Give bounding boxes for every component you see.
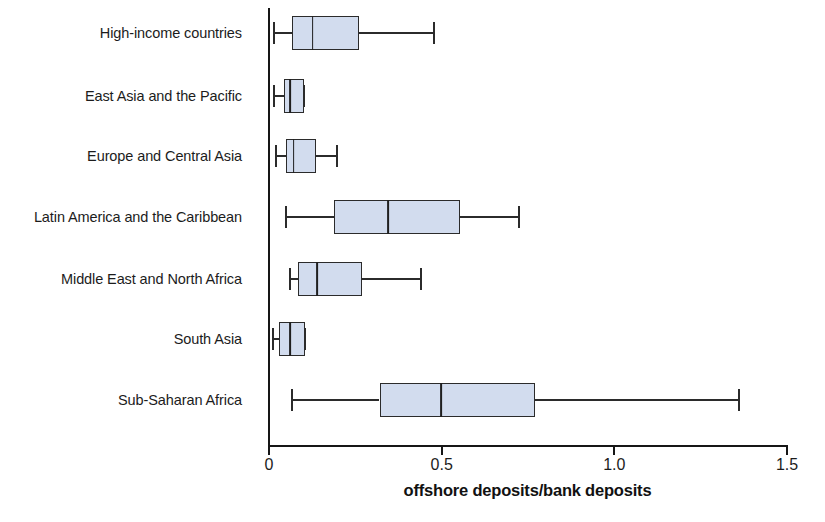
median-line — [387, 200, 389, 234]
median-line — [316, 262, 318, 296]
y-axis-line — [268, 8, 270, 446]
box-iqr — [284, 79, 304, 113]
x-tick-0 — [268, 447, 270, 455]
whisker-low-cap — [273, 85, 275, 107]
whisker-low-cap — [291, 389, 293, 411]
whisker-high-cap — [433, 22, 435, 44]
whisker-low-cap — [272, 328, 274, 350]
box-iqr — [279, 322, 305, 356]
x-tick-3 — [786, 447, 788, 455]
whisker-high-line — [316, 155, 337, 157]
category-label-east-asia-pacific: East Asia and the Pacific — [85, 88, 242, 104]
x-axis-title: offshore deposits/bank deposits — [268, 481, 787, 500]
category-label-latin-america-caribbean: Latin America and the Caribbean — [34, 209, 242, 225]
median-line — [293, 139, 295, 173]
whisker-low-line — [290, 278, 298, 280]
whisker-low-line — [276, 155, 286, 157]
whisker-high-line — [359, 32, 435, 34]
median-line — [312, 16, 314, 50]
x-tick-label-1: 0.5 — [431, 456, 453, 474]
median-line — [290, 79, 292, 113]
whisker-low-cap — [289, 268, 291, 290]
box-plot-chart: High-income countries East Asia and the … — [0, 0, 825, 522]
x-tick-label-3: 1.5 — [776, 456, 798, 474]
whisker-high-line — [535, 399, 739, 401]
whisker-high-line — [460, 216, 518, 218]
category-label-europe-central-asia: Europe and Central Asia — [87, 148, 242, 164]
whisker-low-cap — [285, 206, 287, 228]
x-tick-1 — [441, 447, 443, 455]
median-line — [440, 383, 442, 417]
box-iqr — [334, 200, 460, 234]
whisker-low-cap — [275, 145, 277, 167]
x-tick-2 — [613, 447, 615, 455]
x-axis-line — [268, 445, 788, 447]
whisker-high-line — [362, 278, 422, 280]
box-iqr — [292, 16, 358, 50]
box-iqr — [380, 383, 535, 417]
x-tick-label-0: 0 — [265, 456, 274, 474]
category-label-south-asia: South Asia — [174, 331, 242, 347]
whisker-low-line — [274, 95, 284, 97]
category-label-sub-saharan-africa: Sub-Saharan Africa — [118, 392, 242, 408]
category-label-high-income: High-income countries — [100, 25, 242, 41]
whisker-low-cap — [273, 22, 275, 44]
whisker-high-cap — [336, 145, 338, 167]
whisker-high-cap — [518, 206, 520, 228]
box-iqr — [298, 262, 362, 296]
whisker-low-line — [292, 399, 379, 401]
x-tick-label-2: 1.0 — [603, 456, 625, 474]
box-iqr — [286, 139, 316, 173]
category-label-middle-east-north-africa: Middle East and North Africa — [61, 271, 242, 287]
whisker-low-line — [286, 216, 334, 218]
whisker-low-line — [274, 32, 292, 34]
whisker-high-cap — [738, 389, 740, 411]
whisker-high-cap — [420, 268, 422, 290]
median-line — [290, 322, 292, 356]
